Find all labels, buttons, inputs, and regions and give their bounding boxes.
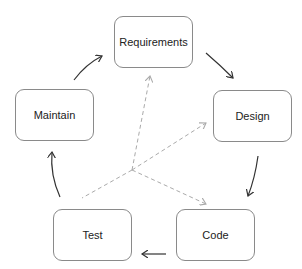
node-label: Test: [82, 229, 102, 241]
node-maintain: Maintain: [15, 89, 94, 141]
node-label: Maintain: [34, 109, 76, 121]
dashed-line-to-test: [82, 170, 132, 198]
node-code: Code: [176, 209, 255, 261]
node-test: Test: [53, 209, 132, 261]
arrow-requirements-to-design: [206, 53, 233, 78]
node-requirements: Requirements: [114, 16, 193, 68]
arrow-design-to-code: [248, 156, 258, 196]
node-label: Design: [235, 110, 269, 122]
node-label: Requirements: [119, 36, 187, 48]
arrow-test-to-maintain: [52, 152, 60, 197]
dashed-arrow-to-code: [132, 170, 206, 204]
node-label: Code: [202, 229, 228, 241]
arrow-maintain-to-requirements: [74, 56, 102, 80]
dashed-arrow-to-design: [132, 123, 206, 170]
dashed-arrow-to-requirements: [132, 76, 150, 170]
node-design: Design: [213, 90, 292, 142]
